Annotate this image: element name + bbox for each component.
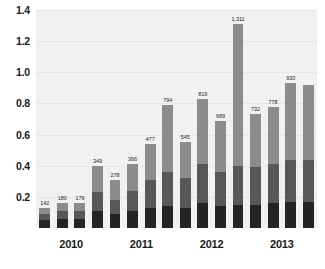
bar-value-label: 778 — [269, 99, 278, 105]
bar-value-label: 819 — [198, 91, 207, 97]
y-axis-tick-label: 1.0 — [16, 66, 30, 78]
bar[interactable]: 1,311 — [233, 24, 244, 228]
bar-segment-bottom-segment — [250, 205, 261, 228]
bar[interactable] — [303, 85, 314, 228]
x-axis: 2010201120122013 — [36, 232, 317, 262]
bar-segment-middle-segment — [74, 211, 85, 219]
bar-segment-top-segment — [162, 105, 173, 172]
bar-segment-top-segment — [197, 99, 208, 164]
bar-segment-middle-segment — [268, 164, 279, 203]
bar-segment-top-segment — [215, 121, 226, 172]
bars-layer: 1421801793492783664777945458196891,31173… — [36, 10, 317, 228]
bar[interactable]: 732 — [250, 114, 261, 228]
bar-value-label: 930 — [286, 75, 295, 81]
bar-segment-middle-segment — [215, 172, 226, 206]
bar-value-label: 349 — [93, 158, 102, 164]
bar-segment-bottom-segment — [180, 208, 191, 228]
bar-segment-middle-segment — [197, 164, 208, 203]
bar[interactable]: 142 — [39, 208, 50, 228]
bar-value-label: 366 — [128, 156, 137, 162]
bar-segment-top-segment — [250, 114, 261, 167]
bar-value-label: 477 — [146, 136, 155, 142]
y-axis-tick-label: 0.4 — [16, 160, 30, 172]
bar-segment-top-segment — [110, 180, 121, 200]
bar-segment-bottom-segment — [92, 211, 103, 228]
bar-value-label: 689 — [216, 113, 225, 119]
bar-segment-bottom-segment — [110, 214, 121, 228]
stacked-bar-chart: 0.20.40.60.81.01.21.4 142180179349278366… — [0, 0, 325, 269]
bar-segment-middle-segment — [180, 178, 191, 208]
bar-value-label: 278 — [111, 172, 120, 178]
bar[interactable]: 819 — [197, 99, 208, 228]
bar-segment-bottom-segment — [57, 219, 68, 228]
bar-segment-bottom-segment — [233, 205, 244, 228]
bar-segment-top-segment — [145, 144, 156, 180]
bar-segment-middle-segment — [285, 160, 296, 202]
bar-value-label: 179 — [75, 195, 84, 201]
bar-segment-bottom-segment — [162, 206, 173, 228]
bar-value-label: 1,311 — [231, 16, 244, 22]
bar[interactable]: 778 — [268, 107, 279, 228]
bar-value-label: 732 — [251, 106, 260, 112]
bar[interactable]: 930 — [285, 83, 296, 228]
bar-segment-top-segment — [268, 107, 279, 165]
x-axis-group-label: 2011 — [130, 238, 153, 250]
bar-segment-bottom-segment — [145, 208, 156, 228]
bar[interactable]: 179 — [74, 203, 85, 228]
y-axis-tick-label: 1.4 — [16, 4, 30, 16]
bar-segment-top-segment — [233, 24, 244, 166]
bar-segment-top-segment — [303, 85, 314, 160]
bar-segment-middle-segment — [145, 180, 156, 208]
bar-segment-top-segment — [180, 142, 191, 178]
plot-area: 1421801793492783664777945458196891,31173… — [36, 10, 317, 228]
bar-value-label: 794 — [163, 97, 172, 103]
bar-segment-bottom-segment — [285, 202, 296, 228]
bar-segment-bottom-segment — [303, 202, 314, 228]
bar-segment-middle-segment — [57, 211, 68, 219]
bar[interactable]: 180 — [57, 203, 68, 228]
bar-segment-top-segment — [127, 164, 138, 190]
bar-segment-bottom-segment — [215, 206, 226, 228]
bar[interactable]: 278 — [110, 180, 121, 228]
bar-segment-middle-segment — [250, 167, 261, 204]
bar-segment-middle-segment — [162, 172, 173, 206]
y-axis-tick-label: 0.6 — [16, 129, 30, 141]
y-axis-tick-label: 0.2 — [16, 191, 30, 203]
bar-segment-bottom-segment — [268, 203, 279, 228]
x-axis-group-label: 2013 — [270, 238, 294, 250]
bar[interactable]: 689 — [215, 121, 226, 228]
bar-segment-bottom-segment — [74, 219, 85, 228]
bar-segment-top-segment — [74, 203, 85, 211]
bar[interactable]: 794 — [162, 105, 173, 228]
y-axis-tick-label: 0.8 — [16, 97, 30, 109]
bar-segment-middle-segment — [127, 191, 138, 211]
bar-segment-top-segment — [285, 83, 296, 159]
bar-segment-middle-segment — [303, 160, 314, 202]
bar-segment-bottom-segment — [197, 203, 208, 228]
x-axis-group-label: 2012 — [200, 238, 224, 250]
bar-segment-middle-segment — [233, 166, 244, 205]
y-axis: 0.20.40.60.81.01.21.4 — [0, 10, 34, 228]
bar[interactable]: 366 — [127, 164, 138, 228]
bar-segment-middle-segment — [110, 200, 121, 214]
bar-value-label: 142 — [40, 200, 49, 206]
bar[interactable]: 477 — [145, 144, 156, 228]
bar-segment-middle-segment — [92, 192, 103, 211]
bar[interactable]: 349 — [92, 166, 103, 228]
bar-segment-top-segment — [57, 203, 68, 211]
bar-value-label: 545 — [181, 134, 190, 140]
bar-segment-bottom-segment — [127, 211, 138, 228]
bar-segment-top-segment — [92, 166, 103, 192]
y-axis-tick-label: 1.2 — [16, 35, 30, 47]
bar-value-label: 180 — [58, 195, 67, 201]
bar-segment-bottom-segment — [39, 220, 50, 228]
bar[interactable]: 545 — [180, 142, 191, 228]
x-axis-group-label: 2010 — [59, 238, 83, 250]
